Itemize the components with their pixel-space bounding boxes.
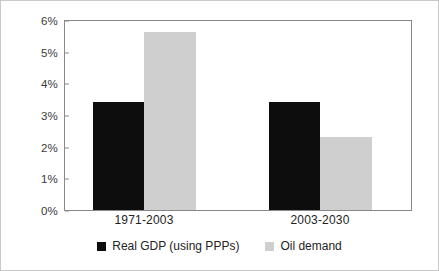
x-axis-label-2003-2030: 2003-2030	[290, 213, 349, 227]
y-tick-mark	[65, 21, 69, 22]
y-tick-mark	[65, 52, 69, 53]
x-axis-label-1971-2003: 1971-2003	[114, 213, 173, 227]
y-tick-label-1: 1%	[41, 173, 65, 185]
y-tick-mark	[65, 179, 69, 180]
y-tick-mark	[65, 116, 69, 117]
legend-label-oil-demand: Oil demand	[280, 239, 341, 253]
bar-chart: 6% 5% 4% 3% 2% 1% 0% 1971-2003 2003-2030…	[0, 0, 439, 271]
legend-item-oil-demand: Oil demand	[265, 239, 341, 253]
chart-legend: Real GDP (using PPPs) Oil demand	[1, 239, 438, 253]
legend-swatch-icon-oil-demand	[265, 242, 274, 251]
plot-area: 6% 5% 4% 3% 2% 1% 0%	[64, 20, 412, 211]
legend-item-real-gdp: Real GDP (using PPPs)	[97, 239, 239, 253]
legend-swatch-icon-real-gdp	[97, 242, 106, 251]
bar-real-gdp-2003-2030	[269, 102, 320, 210]
y-tick-label-4: 4%	[41, 78, 65, 90]
y-tick-label-6: 6%	[41, 15, 65, 27]
y-tick-label-5: 5%	[41, 47, 65, 59]
y-tick-label-2: 2%	[41, 142, 65, 154]
bar-oil-demand-1971-2003	[144, 32, 196, 210]
bar-real-gdp-1971-2003	[93, 102, 144, 210]
y-tick-label-3: 3%	[41, 110, 65, 122]
y-tick-label-0: 0%	[41, 205, 65, 217]
y-tick-mark	[65, 147, 69, 148]
y-tick-mark	[65, 84, 69, 85]
bar-oil-demand-2003-2030	[320, 137, 372, 210]
legend-label-real-gdp: Real GDP (using PPPs)	[112, 239, 239, 253]
y-tick-mark	[65, 211, 69, 212]
